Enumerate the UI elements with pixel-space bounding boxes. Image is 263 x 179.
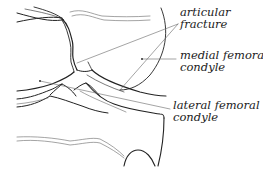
soft-tissue-line [72,15,150,21]
soft-tissue-line [17,137,124,156]
label-articular-fracture: articular fracture [180,6,231,30]
label-line: condyle [180,61,263,73]
fracture-line [77,70,92,72]
label-line: fracture [180,18,231,30]
fracture-line [92,70,166,96]
label-lateral-femoral-condyle: lateral femoral condyle [173,99,260,123]
bone-outline [17,17,62,22]
fracture-line [88,62,92,70]
tibia-outline [158,118,164,166]
plateau-outline [80,91,126,112]
fracture-line [17,72,74,91]
soft-tissue-line [70,11,150,17]
soft-tissue-line [17,140,124,158]
leader-line-articular-fracture [120,24,178,90]
label-line: condyle [173,111,260,123]
plateau-outline [86,83,164,118]
label-medial-femoral-condyle: medial femoral condyle [180,49,263,73]
plateau-outline [17,96,108,113]
fracture-line [62,19,77,70]
leader-line-articular-fracture [77,24,178,63]
fibula-head-outline [124,150,155,166]
leader-line-lateral-condyle [40,81,170,109]
